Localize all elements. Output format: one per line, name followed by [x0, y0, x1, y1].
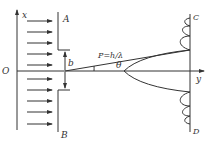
angle-label: θ: [116, 60, 122, 70]
plate-bottom: [58, 90, 70, 132]
slit-width-label: b: [68, 58, 74, 68]
secondary-maxima-top: [180, 18, 190, 50]
plate-top-label: A: [62, 14, 70, 24]
incident-wave-arrows: [27, 21, 52, 124]
secondary-maxima-bottom: [180, 92, 190, 124]
y-axis-label: y: [195, 74, 202, 84]
origin-label: O: [2, 66, 10, 76]
diffraction-diagram: x y O A B b P=h/λ θ C D: [0, 0, 212, 144]
screen-top-label: C: [193, 13, 199, 22]
plate-bottom-label: B: [60, 130, 68, 140]
x-axis-label: x: [22, 10, 27, 20]
screen-bottom-label: D: [192, 127, 200, 136]
momentum-label: P=h/λ: [97, 51, 123, 60]
